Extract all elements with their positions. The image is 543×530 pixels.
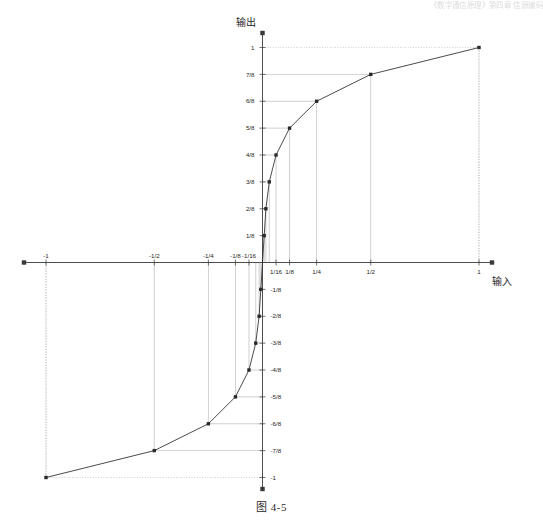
y-tick-label: -6/8 [271,420,282,427]
y-tick-label: -1/8 [271,286,282,293]
data-point-marker [288,126,291,129]
y-axis-label: 输出 [236,16,256,28]
data-point-marker [259,288,262,291]
figure-container: -1-1/2-1/4-1/8-1/161/161/81/41/2117/86/8… [0,0,543,500]
data-point-marker [207,422,210,425]
x-axis-start-marker [22,260,26,264]
data-point-marker [234,395,237,398]
y-tick-label: 7/8 [246,71,255,78]
axes-group [22,31,494,491]
figure-caption: 图 4-5 [0,498,543,514]
x-tick-label: 1/4 [312,268,321,275]
data-point-marker [369,73,372,76]
x-tick-label: 1/8 [285,268,294,275]
y-tick-label: -2/8 [271,312,282,319]
data-point-marker [254,341,257,344]
data-point-marker [153,449,156,452]
data-point-marker [274,153,277,156]
data-point-marker [257,315,260,318]
y-tick-label: -7/8 [271,447,282,454]
data-point-marker [268,180,271,183]
x-tick-label: 1/2 [366,268,375,275]
x-tick-label: -1 [43,252,49,259]
data-point-marker [477,46,480,49]
y-tick-label: -3/8 [271,339,282,346]
figure-page: 《数字通信原理》第四章 信源编码 -1-1/2-1/4-1/8-1/161/16… [0,0,543,530]
x-tick-label: -1/4 [203,252,214,259]
y-tick-label: 1/8 [246,232,255,239]
x-tick-label: 1 [477,268,481,275]
y-tick-label: -1 [271,474,277,481]
y-axis-end-marker [260,487,264,491]
x-axis-arrow-icon [490,260,494,264]
data-point-marker [262,234,265,237]
x-tick-label: -1/2 [149,252,160,259]
y-tick-label: 3/8 [246,178,255,185]
y-tick-label: 6/8 [246,97,255,104]
compander-curve-chart: -1-1/2-1/4-1/8-1/161/161/81/41/2117/86/8… [0,0,543,500]
x-tick-label: -1/16 [242,252,257,259]
x-axis-label: 输入 [492,275,512,287]
data-point-marker [315,100,318,103]
x-tick-label: 1/16 [270,268,283,275]
y-tick-label: 4/8 [246,151,255,158]
y-tick-label: 1 [251,44,255,51]
data-point-marker [44,476,47,479]
y-tick-label: -4/8 [271,366,282,373]
x-tick-label: -1/8 [230,252,241,259]
y-tick-label: 5/8 [246,124,255,131]
y-axis-arrow-icon [260,31,264,35]
data-point-marker [264,207,267,210]
y-tick-label: 2/8 [246,205,255,212]
data-point-marker [247,368,250,371]
y-tick-label: -5/8 [271,393,282,400]
